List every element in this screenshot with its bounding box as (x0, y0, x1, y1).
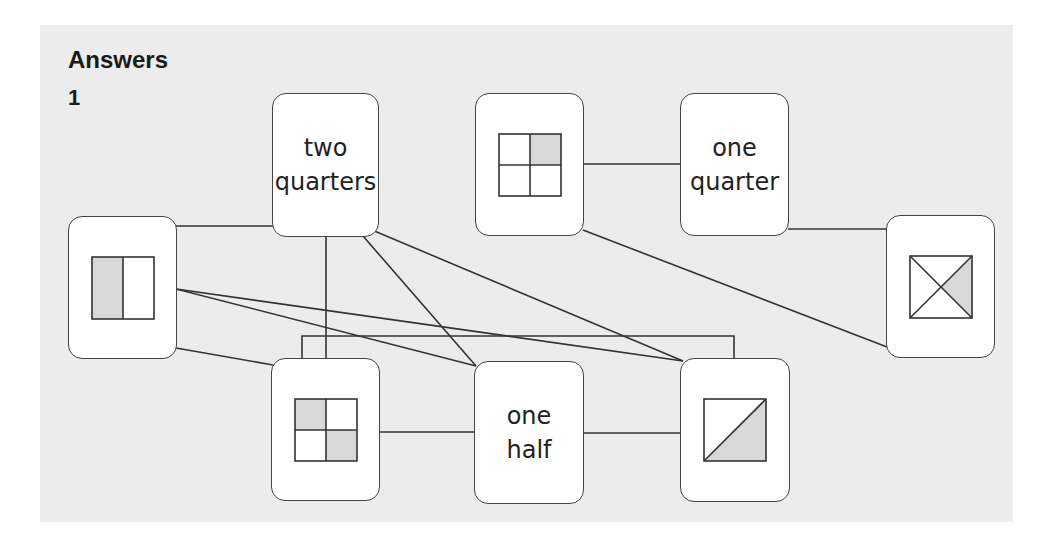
half-shaded-square-icon (91, 256, 155, 320)
quarter-shaded-square-icon (498, 133, 562, 197)
line-two-quarters-one-half (363, 236, 476, 366)
card-two-quarters-picture[interactable] (271, 358, 380, 501)
card-one-half[interactable]: one half (474, 361, 584, 504)
card-diagonal-picture[interactable] (680, 358, 790, 502)
card-quarter-picture[interactable] (475, 93, 584, 236)
card-label: one quarter (690, 131, 779, 199)
two-quarters-shaded-square-icon (294, 398, 358, 462)
quarter-triangle-square-icon (909, 255, 973, 319)
card-one-quarter[interactable]: one quarter (680, 93, 789, 236)
diagonal-half-square-icon (703, 398, 767, 462)
card-two-quarters[interactable]: two quarters (272, 93, 379, 237)
line-halves-quarters-picture (176, 348, 273, 365)
line-halves-diagonal (176, 289, 683, 361)
card-label: two quarters (275, 131, 377, 199)
line-two-quarters-diagonal (372, 230, 683, 361)
card-cross-picture[interactable] (886, 215, 995, 358)
line-quarter-picture-cross (583, 230, 887, 347)
card-label: one half (506, 399, 551, 467)
card-halves-picture[interactable] (68, 216, 177, 359)
